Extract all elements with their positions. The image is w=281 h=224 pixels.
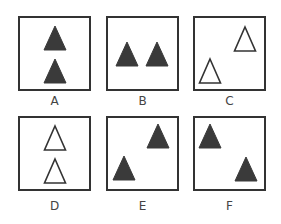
label-c: C: [193, 94, 266, 108]
filled-triangle-icon: [116, 42, 138, 66]
panel-f: [193, 116, 266, 191]
filled-triangle-icon: [113, 156, 135, 180]
triangles-svg: [18, 116, 91, 191]
label-a: A: [18, 94, 91, 108]
outline-triangle-icon: [45, 159, 66, 183]
outline-triangle-icon: [235, 27, 256, 51]
outline-triangle-icon: [200, 59, 221, 83]
panel-e: [106, 116, 179, 191]
filled-triangle-icon: [44, 26, 66, 50]
panel-a: [18, 16, 91, 91]
triangles-svg: [106, 116, 179, 191]
triangles-svg: [106, 16, 179, 91]
label-b: B: [106, 94, 179, 108]
panel-d: [18, 116, 91, 191]
filled-triangle-icon: [44, 59, 66, 83]
panel-c: [193, 16, 266, 91]
outline-triangle-icon: [45, 126, 66, 150]
triangles-svg: [193, 16, 266, 91]
label-f: F: [193, 199, 266, 213]
label-d: D: [18, 199, 91, 213]
triangles-svg: [18, 16, 91, 91]
triangles-svg: [193, 116, 266, 191]
filled-triangle-icon: [146, 42, 168, 66]
filled-triangle-icon: [147, 124, 169, 148]
filled-triangle-icon: [235, 157, 257, 181]
filled-triangle-icon: [199, 124, 221, 148]
panel-b: [106, 16, 179, 91]
label-e: E: [106, 199, 179, 213]
